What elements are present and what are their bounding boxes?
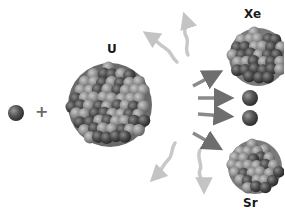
- arrow-to-neutron-2: [198, 114, 224, 116]
- uranium-nucleus: [66, 61, 153, 147]
- incoming-neutron: [8, 105, 24, 121]
- energy-arrow-up: [185, 20, 188, 55]
- energy-arrow-up-left: [150, 36, 177, 62]
- arrow-to-strontium: [193, 133, 214, 145]
- energy-arrows: [150, 20, 204, 186]
- energy-arrow-down-left: [156, 143, 175, 176]
- released-neutron-2: [242, 110, 258, 126]
- energy-arrow-down: [199, 150, 204, 186]
- strontium-label: Sr: [243, 197, 258, 209]
- xenon-label: Xe: [244, 8, 261, 20]
- released-neutron-1: [242, 90, 258, 106]
- product-arrows: [193, 75, 224, 145]
- arrow-to-xenon: [193, 75, 214, 86]
- uranium-label: U: [107, 43, 117, 55]
- strontium-nucleus: [226, 139, 284, 194]
- xenon-nucleus: [227, 26, 285, 86]
- plus-sign: +: [35, 104, 48, 120]
